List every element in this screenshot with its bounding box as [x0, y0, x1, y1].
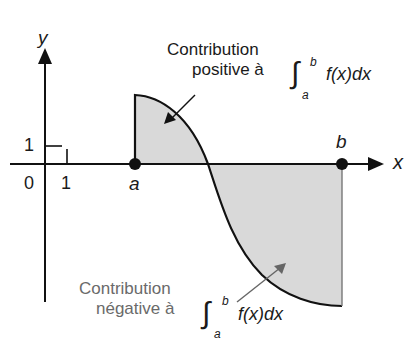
positive-annotation: Contribution positive à — [167, 40, 264, 79]
origin-label: 0 — [24, 174, 34, 192]
y-tick-label: 1 — [24, 136, 34, 154]
positive-line2: positive à — [192, 60, 264, 80]
positive-upper-limit: b — [310, 55, 317, 69]
negative-line2: négative à — [96, 299, 174, 319]
positive-integral-sign: ∫ — [291, 58, 299, 88]
x-tick-label: 1 — [61, 174, 71, 192]
positive-pointer — [170, 95, 195, 120]
y-axis-arrow-icon — [38, 48, 52, 64]
negative-annotation: Contribution négative à — [79, 279, 174, 318]
point-a — [129, 158, 141, 170]
positive-lower-limit: a — [302, 88, 309, 102]
positive-integrand: f(x)dx — [326, 64, 371, 85]
negative-lower-limit: a — [214, 327, 221, 341]
positive-line1: Contribution — [167, 40, 264, 60]
positive-area — [135, 95, 208, 164]
negative-line1: Contribution — [79, 279, 174, 299]
x-axis-label: x — [393, 152, 403, 172]
x-axis-arrow-icon — [368, 157, 384, 171]
negative-upper-limit: b — [222, 294, 229, 308]
b-label: b — [336, 132, 347, 151]
negative-integrand: f(x)dx — [238, 304, 283, 325]
y-axis-label: y — [38, 28, 48, 47]
point-b — [336, 158, 348, 170]
negative-integral-sign: ∫ — [202, 298, 210, 328]
a-label: a — [129, 174, 140, 193]
